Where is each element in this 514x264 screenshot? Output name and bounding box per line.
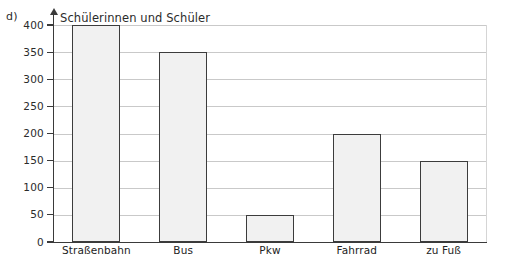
plot-area xyxy=(53,25,487,242)
x-axis-category-label: zu Fuß xyxy=(394,244,494,256)
bar-chart-figure: d) Schülerinnen und Schüler 050100150200… xyxy=(0,0,514,264)
y-tick-mark xyxy=(47,52,54,53)
y-tick-mark xyxy=(47,106,54,107)
bar xyxy=(159,52,207,242)
y-tick-mark xyxy=(47,133,54,134)
bar xyxy=(72,25,120,242)
y-axis-title: Schülerinnen und Schüler xyxy=(60,11,210,25)
y-tick-label: 300 xyxy=(2,73,44,85)
y-tick-label: 250 xyxy=(2,100,44,112)
x-axis-category-label: Pkw xyxy=(220,244,320,256)
bar xyxy=(246,215,294,242)
y-tick-label: 100 xyxy=(2,181,44,193)
x-axis-line xyxy=(53,242,487,243)
y-tick-mark xyxy=(47,241,54,242)
bar xyxy=(333,134,381,243)
y-tick-mark xyxy=(47,79,54,80)
y-tick-label: 350 xyxy=(2,46,44,58)
y-tick-label: 50 xyxy=(2,208,44,220)
y-tick-mark xyxy=(47,160,54,161)
y-tick-label: 150 xyxy=(2,154,44,166)
x-axis-category-label: Straßenbahn xyxy=(46,244,146,256)
y-tick-mark xyxy=(47,24,54,25)
y-tick-label: 400 xyxy=(2,19,44,31)
y-tick-mark xyxy=(47,187,54,188)
y-axis-line xyxy=(53,13,54,242)
bar xyxy=(420,161,468,242)
x-axis-category-label: Bus xyxy=(133,244,233,256)
y-tick-mark xyxy=(47,214,54,215)
y-tick-label: 0 xyxy=(2,236,44,248)
y-tick-label: 200 xyxy=(2,127,44,139)
plot-right-border xyxy=(486,25,487,242)
x-axis-category-label: Fahrrad xyxy=(307,244,407,256)
